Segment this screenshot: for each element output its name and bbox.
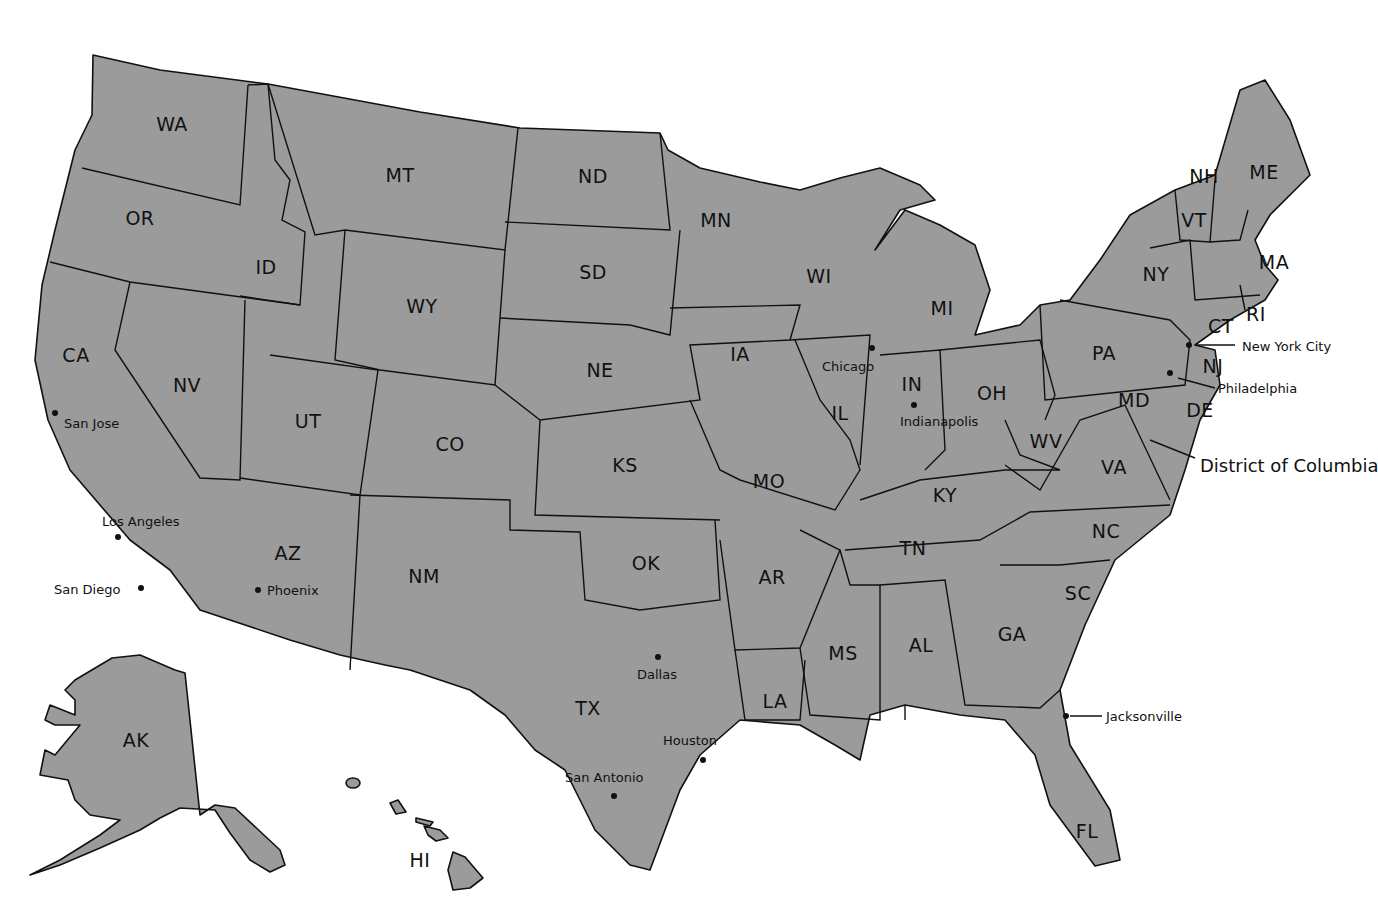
city-dot-icon xyxy=(911,402,917,408)
state-label-wv: WV xyxy=(1030,430,1063,452)
city-dot-icon xyxy=(138,585,144,591)
hawaii xyxy=(346,778,483,890)
state-label-nv: NV xyxy=(173,374,201,396)
city-label: Dallas xyxy=(637,667,677,682)
city-dot-icon xyxy=(1186,342,1192,348)
city-label: New York City xyxy=(1242,338,1312,356)
city-dot-icon xyxy=(700,757,706,763)
state-label-pa: PA xyxy=(1092,342,1116,364)
state-label-md: MD xyxy=(1118,389,1150,411)
city-dot-icon xyxy=(52,410,58,416)
state-label-ar: AR xyxy=(758,566,785,588)
state-label-mi: MI xyxy=(931,297,954,319)
state-label-ky: KY xyxy=(933,484,957,506)
city-label: San Jose xyxy=(64,416,119,431)
state-label-la: LA xyxy=(762,690,787,712)
state-label-mo: MO xyxy=(753,470,785,492)
state-label-nd: ND xyxy=(578,165,608,187)
city-label: Phoenix xyxy=(267,583,319,598)
state-label-nh: NH xyxy=(1189,165,1219,187)
state-label-tx: TX xyxy=(575,697,601,719)
state-label-or: OR xyxy=(125,207,154,229)
city-label: Houston xyxy=(663,733,717,748)
state-label-id: ID xyxy=(255,256,276,278)
state-label-ut: UT xyxy=(295,410,322,432)
state-label-co: CO xyxy=(435,433,464,455)
state-label-wi: WI xyxy=(806,265,831,287)
state-label-ca: CA xyxy=(62,344,89,366)
city-label: Jacksonville xyxy=(1106,709,1182,724)
alaska xyxy=(30,655,285,875)
state-label-ct: CT xyxy=(1208,315,1234,337)
state-label-oh: OH xyxy=(977,382,1007,404)
state-label-wa: WA xyxy=(156,113,188,135)
city-dot-icon xyxy=(255,587,261,593)
state-label-nm: NM xyxy=(408,565,440,587)
city-label: San Diego xyxy=(54,582,120,597)
state-label-ny: NY xyxy=(1143,263,1170,285)
city-dot-icon xyxy=(611,793,617,799)
city-dot-icon xyxy=(869,345,875,351)
state-label-de: DE xyxy=(1186,399,1214,421)
city-dot-icon xyxy=(1063,713,1069,719)
state-label-va: VA xyxy=(1101,456,1127,478)
city-label: San Antonio xyxy=(565,770,644,785)
city-dot-icon xyxy=(115,534,121,540)
state-label-ia: IA xyxy=(730,343,750,365)
state-label-az: AZ xyxy=(274,542,301,564)
state-label-in: IN xyxy=(902,373,923,395)
state-label-sc: SC xyxy=(1065,582,1091,604)
state-label-al: AL xyxy=(909,634,934,656)
state-label-tn: TN xyxy=(900,537,927,559)
city-label: Los Angeles xyxy=(102,514,180,529)
state-label-nc: NC xyxy=(1092,520,1120,542)
state-label-nj: NJ xyxy=(1203,355,1224,377)
state-label-sd: SD xyxy=(579,261,607,283)
state-label-hi: HI xyxy=(410,849,431,871)
state-label-ga: GA xyxy=(998,623,1027,645)
state-label-ri: RI xyxy=(1246,303,1266,325)
state-label-ne: NE xyxy=(586,359,613,381)
state-label-ms: MS xyxy=(828,642,857,664)
city-label: Indianapolis xyxy=(900,414,978,429)
dc-label: District of Columbia xyxy=(1200,455,1378,477)
city-dot-icon xyxy=(655,654,661,660)
city-label: Philadelphia xyxy=(1218,381,1297,396)
city-dot-icon xyxy=(1167,370,1173,376)
state-label-ak: AK xyxy=(123,729,149,751)
state-label-me: ME xyxy=(1249,161,1278,183)
state-label-mn: MN xyxy=(700,209,732,231)
state-label-ma: MA xyxy=(1259,251,1289,273)
city-label: Chicago xyxy=(822,359,874,374)
state-label-fl: FL xyxy=(1076,820,1099,842)
state-label-wy: WY xyxy=(406,295,437,317)
state-label-il: IL xyxy=(831,402,848,424)
state-label-ks: KS xyxy=(612,454,638,476)
state-label-mt: MT xyxy=(386,164,415,186)
state-label-vt: VT xyxy=(1181,209,1207,231)
state-label-ok: OK xyxy=(632,552,660,574)
